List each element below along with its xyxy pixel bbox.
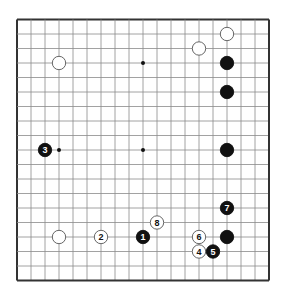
move-number: 4 — [196, 247, 201, 257]
move-number: 7 — [224, 203, 229, 213]
black-stone-7: 7 — [220, 201, 233, 214]
white-stone — [220, 27, 233, 40]
white-stone-2: 2 — [94, 230, 107, 243]
black-stone-5: 5 — [206, 245, 219, 258]
star-point — [57, 148, 61, 152]
black-stone — [220, 230, 233, 243]
black-stone-1: 1 — [136, 230, 149, 243]
star-point — [141, 148, 145, 152]
move-number: 5 — [210, 247, 215, 257]
move-number: 2 — [98, 232, 103, 242]
black-stone-3: 3 — [38, 143, 51, 156]
move-number: 8 — [154, 218, 159, 228]
white-stone-4: 4 — [192, 245, 205, 258]
move-number: 1 — [140, 232, 145, 242]
black-stone — [220, 85, 233, 98]
black-stone — [220, 143, 233, 156]
go-board: 37812645 — [0, 0, 282, 301]
white-stone — [52, 230, 65, 243]
stones: 37812645 — [38, 27, 233, 258]
white-stone-6: 6 — [192, 230, 205, 243]
white-stone — [52, 56, 65, 69]
black-stone — [220, 56, 233, 69]
white-stone — [192, 42, 205, 55]
move-number: 3 — [42, 145, 47, 155]
white-stone-8: 8 — [150, 216, 163, 229]
move-number: 6 — [196, 232, 201, 242]
star-point — [141, 61, 145, 65]
